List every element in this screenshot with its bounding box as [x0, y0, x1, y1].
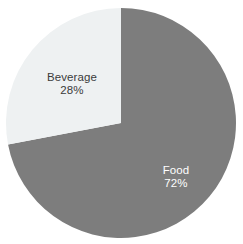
pie-chart: Beverage 28% Food 72% [0, 0, 243, 244]
pie-slices [6, 8, 236, 238]
pie-chart-canvas [0, 0, 243, 244]
pie-slice-label-food: Food 72% [130, 164, 222, 190]
pie-slice-label-beverage-value: 28% [26, 84, 118, 97]
pie-slice-label-beverage-name: Beverage [26, 71, 118, 84]
pie-slice-label-food-value: 72% [130, 177, 222, 190]
pie-slice-label-food-name: Food [130, 164, 222, 177]
pie-slice-label-beverage: Beverage 28% [26, 71, 118, 97]
